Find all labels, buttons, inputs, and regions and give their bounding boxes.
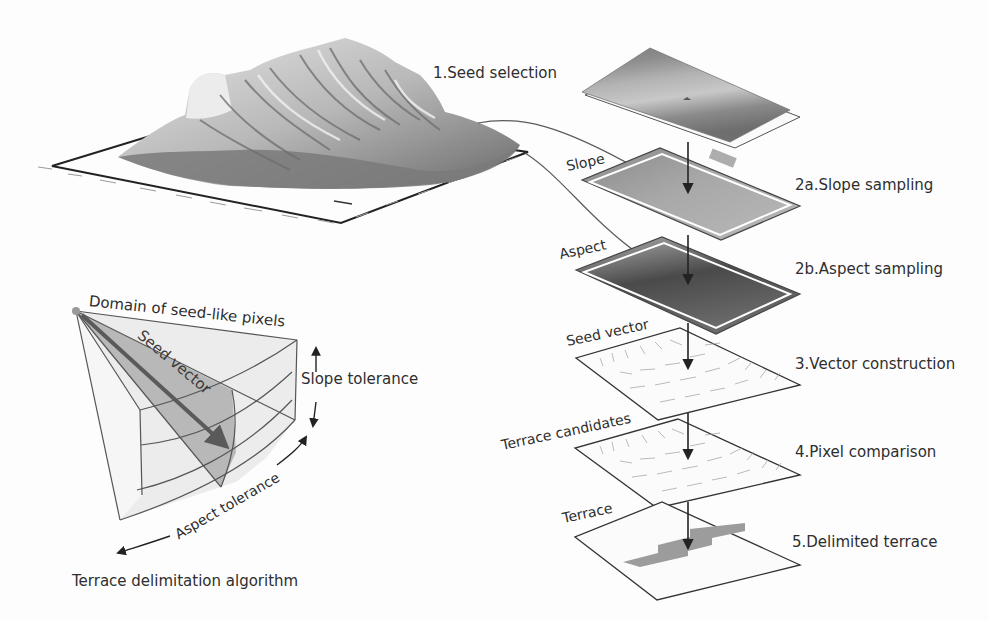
step-label-slope-sampling: 2a.Slope sampling <box>795 176 933 194</box>
step-label-seed-selection: 1.Seed selection <box>433 64 557 82</box>
figure-caption: Terrace delimitation algorithm <box>72 572 298 590</box>
step-label-aspect-sampling: 2b.Aspect sampling <box>795 260 943 278</box>
cone-label-slope-tolerance: Slope tolerance <box>301 370 418 388</box>
step-label-delimited-terrace: 5.Delimited terrace <box>792 533 937 551</box>
layer-seed-selection <box>582 48 800 148</box>
step-label-vector-construction: 3.Vector construction <box>795 355 955 373</box>
layer-slope <box>582 148 800 240</box>
step-label-pixel-comparison: 4.Pixel comparison <box>795 443 936 461</box>
seed-point-icon <box>72 307 80 315</box>
